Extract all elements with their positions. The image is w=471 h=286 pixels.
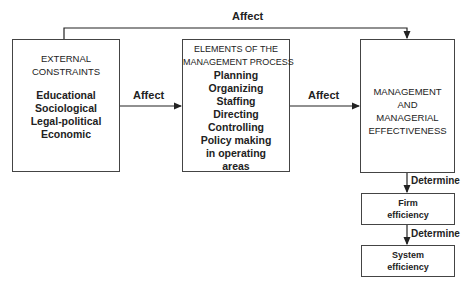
middle-affect-label: Affect [308, 89, 339, 101]
process-item: Organizing [183, 82, 289, 95]
system-efficiency-box: System efficiency [361, 245, 455, 277]
constraint-item: Legal-political [13, 115, 119, 128]
process-item: areas [183, 160, 289, 173]
box-line: MANAGEMENT [361, 85, 454, 98]
constraint-item: Economic [13, 128, 119, 141]
top-affect-label: Affect [232, 10, 263, 22]
box-line: EFFECTIVENESS [361, 124, 454, 137]
external-constraints-box: EXTERNAL CONSTRAINTS Educational Sociolo… [12, 39, 120, 172]
constraint-item: Sociological [13, 102, 119, 115]
process-item: Policy making [183, 134, 289, 147]
box-line: AND [361, 98, 454, 111]
process-item: Planning [183, 69, 289, 82]
box-line: efficiency [362, 261, 454, 273]
process-item: Controlling [183, 121, 289, 134]
box-line: MANAGERIAL [361, 111, 454, 124]
box-line: System [362, 249, 454, 261]
box-title: ELEMENTS OF THE [183, 43, 289, 56]
effectiveness-box: MANAGEMENT AND MANAGERIAL EFFECTIVENESS [360, 39, 455, 173]
box-title: EXTERNAL [13, 52, 119, 65]
box-title: MANAGEMENT PROCESS [183, 56, 289, 69]
box-title: CONSTRAINTS [13, 65, 119, 78]
determine-label-2: Determine [411, 228, 460, 239]
box-line: efficiency [362, 209, 454, 221]
process-item: Staffing [183, 95, 289, 108]
management-process-box: ELEMENTS OF THE MANAGEMENT PROCESS Plann… [182, 39, 290, 172]
left-affect-label: Affect [133, 89, 164, 101]
box-line: Firm [362, 197, 454, 209]
determine-label-1: Determine [411, 175, 460, 186]
firm-efficiency-box: Firm efficiency [361, 193, 455, 225]
process-item: Directing [183, 108, 289, 121]
process-item: in operating [183, 147, 289, 160]
constraint-item: Educational [13, 89, 119, 102]
